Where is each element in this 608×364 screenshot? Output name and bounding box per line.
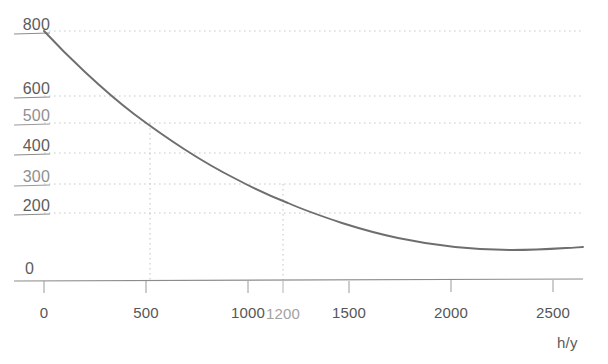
y-tick-label-500: 500 [14,108,50,124]
y-tick-label-300: 300 [14,169,50,185]
x-axis-unit-label: h/y [557,335,578,350]
y-tick-label-600: 600 [14,81,50,97]
y-tick-rule-300 [14,185,50,186]
x-tick-label-2000: 2000 [429,305,473,320]
y-tick-rule-800 [14,33,50,34]
y-tick-rule-600 [14,97,50,98]
y-tick-rules [14,33,50,215]
x-tick-label-2500: 2500 [531,305,575,320]
y-tick-rule-500 [14,124,50,125]
y-tick-label-800: 800 [14,17,50,33]
chart-canvas [0,0,608,364]
x-axis-line [14,279,583,281]
y-tick-rule-200 [14,214,50,215]
x-tick-label-500: 500 [126,305,166,320]
x-tick-marks [44,280,553,293]
y-tick-rule-400 [14,154,50,155]
x-tick-label-1500: 1500 [327,305,371,320]
y-tick-label-0: 0 [25,261,34,277]
x-tick-label-0: 0 [24,305,64,320]
chart-container: 800 600 500 400 300 200 0 0 500 1000 120… [0,0,608,364]
horizontal-gridlines [44,31,583,213]
y-tick-label-200: 200 [14,198,50,214]
y-tick-label-400: 400 [14,138,50,154]
data-curve [44,31,583,250]
x-tick-label-1200: 1200 [262,306,304,321]
vertical-guide-lines [150,123,283,280]
